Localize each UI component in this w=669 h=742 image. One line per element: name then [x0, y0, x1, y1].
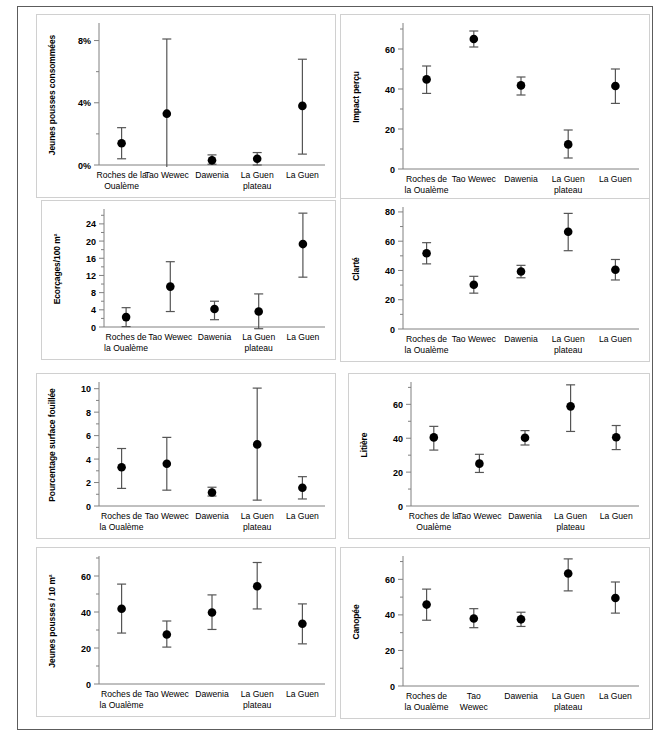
y-tick-label: 40	[385, 266, 395, 276]
y-tick-label: 6	[86, 431, 91, 441]
y-tick-label: 4	[91, 305, 96, 315]
y-tick-label: 0	[398, 502, 403, 512]
data-point-group	[254, 294, 263, 329]
y-axis-label: Clarté	[351, 209, 361, 329]
y-tick-label: 20	[385, 125, 395, 135]
panel-jeunes-pousses-consommees: 0%4%8%Jeunes pousses consomméesRoches de…	[36, 14, 336, 198]
panel-jeunes-pousses-10m2: 0204060Jeunes pousses / 10 m²Roches de l…	[36, 547, 336, 717]
y-tick-label: 24	[86, 219, 96, 229]
data-point-group	[611, 259, 620, 279]
y-tick-label: 20	[86, 237, 96, 247]
data-marker	[611, 265, 620, 274]
data-marker	[166, 282, 175, 291]
panel-ecorcages: 04812162024Ecorçages/100 m²Roches de la …	[41, 200, 336, 360]
data-marker	[611, 82, 620, 91]
panel-litiere: 0204060LitièreRoches de la OualèmeTao We…	[348, 373, 650, 539]
data-marker	[253, 154, 262, 163]
data-point-group	[429, 426, 438, 450]
y-axis-label: Jeunes pousses / 10 m²	[47, 558, 57, 684]
x-tick-label: La Guen	[587, 511, 645, 522]
data-point-group	[422, 66, 431, 93]
y-tick-label: 60	[385, 237, 395, 247]
data-marker	[299, 240, 308, 249]
y-axis-label: Pourcentage surface fouillée	[47, 384, 57, 506]
data-marker	[298, 619, 307, 628]
y-tick-label: 60	[385, 575, 395, 585]
data-marker	[117, 604, 126, 613]
data-point-group	[566, 385, 575, 432]
data-marker	[470, 35, 479, 44]
data-marker	[163, 459, 172, 468]
y-tick-label: 60	[393, 400, 403, 410]
data-point-group	[122, 308, 131, 327]
y-tick-label: 20	[393, 468, 403, 478]
y-tick-label: 2	[86, 478, 91, 488]
data-point-group	[564, 559, 573, 591]
data-point-group	[475, 454, 484, 472]
y-tick-label: 0	[390, 325, 395, 335]
data-point-group	[517, 265, 526, 277]
y-tick-label: 16	[86, 254, 96, 264]
data-marker	[298, 484, 307, 493]
data-marker	[475, 459, 484, 468]
data-marker	[210, 305, 219, 314]
x-tick-label: La Guen	[586, 691, 645, 702]
data-point-group	[564, 130, 573, 158]
data-point-group	[253, 153, 262, 165]
data-marker	[612, 433, 621, 442]
data-point-group	[521, 431, 530, 445]
y-tick-label: 40	[385, 610, 395, 620]
data-point-group	[298, 59, 307, 154]
data-marker	[611, 594, 620, 603]
y-tick-label: 20	[385, 295, 395, 305]
data-marker	[517, 267, 526, 276]
data-point-group	[422, 243, 431, 264]
data-marker	[517, 81, 526, 90]
x-tick-label: La Guen	[274, 511, 331, 522]
y-tick-label: 80	[385, 207, 395, 217]
y-tick-label: 60	[385, 45, 395, 55]
data-point-group	[253, 388, 262, 500]
data-point-group	[208, 595, 217, 630]
data-point-group	[469, 31, 478, 47]
data-marker	[117, 463, 126, 472]
data-point-group	[162, 39, 171, 167]
y-tick-label: 12	[86, 271, 96, 281]
data-point-group	[117, 449, 126, 489]
data-marker	[163, 630, 172, 639]
y-tick-label: 0	[390, 165, 395, 175]
y-tick-label: 8%	[78, 36, 91, 46]
data-point-group	[517, 77, 526, 95]
data-marker	[430, 433, 439, 442]
data-point-group	[208, 487, 217, 497]
y-tick-label: 8	[91, 288, 96, 298]
data-point-group	[208, 155, 217, 165]
data-marker	[422, 600, 431, 609]
panel-pourcentage-surface-fouillee: 0246810Pourcentage surface fouilléeRoche…	[36, 373, 336, 539]
data-point-group	[422, 589, 431, 620]
data-point-group	[253, 563, 262, 609]
data-point-group	[564, 213, 573, 250]
data-marker	[298, 102, 307, 111]
data-marker	[521, 433, 530, 442]
data-marker	[470, 281, 479, 290]
x-tick-label: La Guen	[275, 332, 331, 343]
y-axis-label: Jeunes pousses consommées	[47, 25, 57, 165]
data-point-group	[612, 426, 621, 450]
y-tick-label: 0	[86, 502, 91, 512]
data-point-group	[611, 582, 620, 613]
data-point-group	[517, 612, 526, 626]
data-marker	[470, 614, 479, 623]
panel-impact-percu: 0204060Impact perçuRoches de la OualèmeT…	[340, 14, 650, 202]
data-point-group	[166, 262, 175, 312]
panel-clarte: 020406080ClartéRoches de la OualèmeTao W…	[340, 198, 650, 362]
data-point-group	[162, 437, 171, 490]
y-tick-label: 40	[385, 85, 395, 95]
y-tick-label: 60	[81, 572, 91, 582]
data-point-group	[210, 301, 219, 319]
figure-root: 0%4%8%Jeunes pousses consomméesRoches de…	[0, 0, 669, 742]
y-tick-label: 0%	[78, 161, 91, 171]
data-marker	[208, 608, 217, 617]
y-tick-label: 10	[81, 384, 91, 394]
data-marker	[564, 140, 573, 149]
